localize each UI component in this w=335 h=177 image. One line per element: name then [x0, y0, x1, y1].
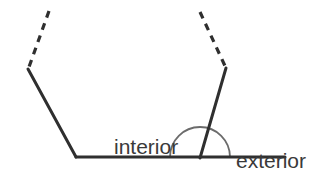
exterior-angle-label-line1: exterior	[236, 148, 306, 173]
geometry-figure: interior angle exterior angle	[0, 0, 335, 177]
interior-angle-label-line1: interior	[114, 134, 178, 159]
polygon-left-dashed-edge	[29, 11, 49, 67]
polygon-right-dashed-edge	[200, 12, 225, 66]
polygon-right-side	[200, 68, 226, 158]
exterior-angle-label: exterior angle	[236, 98, 306, 177]
interior-angle-label: interior angle	[114, 84, 178, 177]
angle-arc	[170, 127, 230, 157]
polygon-left-side	[28, 69, 76, 157]
